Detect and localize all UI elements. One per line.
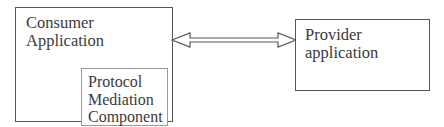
bidirectional-arrow-icon [170, 30, 298, 50]
provider-application-box: Provider application [295, 19, 430, 91]
protocol-mediation-component-box: Protocol Mediation Component [81, 68, 168, 126]
consumer-application-box: Consumer Application Protocol Mediation … [15, 7, 173, 122]
provider-application-label: Provider application [305, 26, 378, 61]
protocol-mediation-component-label: Protocol Mediation Component [88, 73, 163, 126]
consumer-application-label: Consumer Application [26, 14, 104, 49]
